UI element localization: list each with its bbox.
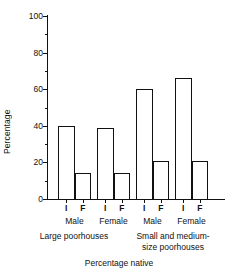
x-tick-label: F (151, 203, 171, 213)
x-tick-label: F (73, 203, 93, 213)
y-tick-mark (43, 162, 47, 163)
y-tick-label: 0 (15, 195, 43, 203)
y-tick-label: 40 (15, 122, 43, 130)
y-tick-mark (43, 199, 47, 200)
y-tick-mark (43, 126, 47, 127)
y-tick-mark-minor (45, 34, 48, 35)
x-axis-tick-labels: IFIFIFIF (47, 203, 227, 215)
plot-area (47, 16, 224, 199)
x-axis-label: Percentage native (0, 258, 238, 269)
y-tick-mark (43, 53, 47, 54)
bar (192, 161, 209, 199)
supergroup-label-line1: Small and medium- (136, 231, 209, 241)
y-tick-mark-minor (45, 144, 48, 145)
bar (136, 89, 153, 199)
y-tick-label: 60 (15, 85, 43, 93)
bar (114, 173, 131, 199)
bar-chart-figure: Percentage 020406080100 IFIFIFIF MaleFem… (0, 0, 238, 278)
bar (58, 126, 75, 199)
bar (97, 128, 114, 199)
y-tick-mark-minor (45, 108, 48, 109)
y-axis-spine (47, 15, 48, 200)
x-axis-group-labels: MaleFemaleMaleFemale (47, 216, 227, 229)
bar (175, 78, 192, 199)
supergroup-label-line2: size poorhouses (120, 242, 226, 253)
bar (75, 173, 92, 199)
y-axis-label: Percentage (0, 92, 14, 172)
y-tick-label: 80 (15, 49, 43, 57)
x-tick-label: F (112, 203, 132, 213)
supergroup-label-large-poorhouses: Large poorhouses (30, 231, 118, 242)
x-axis-spine (47, 199, 225, 200)
x-tick-label: F (190, 203, 210, 213)
x-axis-supergroup-labels: Large poorhouses Small and medium-size p… (20, 231, 232, 257)
supergroup-label-small-medium-poorhouses: Small and medium-size poorhouses (120, 231, 226, 253)
y-tick-mark (43, 16, 47, 17)
y-axis-tick-labels: 020406080100 (15, 0, 43, 220)
y-tick-mark (43, 89, 47, 90)
y-tick-mark-minor (45, 181, 48, 182)
bar (153, 161, 170, 199)
y-tick-label: 100 (15, 12, 43, 20)
group-label-female: Female (169, 216, 215, 227)
y-tick-label: 20 (15, 158, 43, 166)
y-tick-mark-minor (45, 71, 48, 72)
